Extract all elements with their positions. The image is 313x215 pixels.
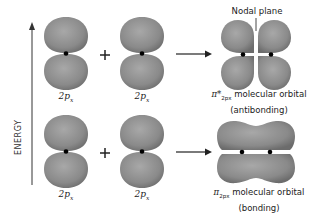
mo-type: (antibonding) — [230, 105, 287, 115]
top-left-orbital-label: 2px — [59, 91, 74, 103]
nucleus-dot — [269, 52, 274, 57]
antibonding-mo-label: π*2px molecular orbital (antibonding) — [211, 88, 306, 116]
orbital-subscript: x — [146, 194, 149, 201]
bottom-plus-sign — [100, 148, 110, 158]
top-reaction-arrow — [176, 51, 212, 58]
bottom-right-p-orbital — [120, 115, 164, 188]
arrow-right-icon — [205, 149, 212, 156]
top-plus-sign — [100, 50, 110, 60]
arrow-right-icon — [205, 51, 212, 58]
mo-description: molecular orbital — [234, 89, 306, 99]
mo-subscript: 2px — [219, 193, 229, 199]
orbital-name: 2p — [135, 189, 147, 199]
orbital-subscript: x — [146, 96, 149, 103]
nucleus-dot — [241, 52, 246, 57]
mo-symbol: π* — [211, 89, 221, 99]
energy-axis-label: ENERGY — [14, 120, 23, 155]
nucleus-dot — [140, 149, 145, 154]
orbital-subscript: x — [70, 96, 73, 103]
bottom-reaction-arrow — [176, 149, 212, 156]
nucleus-dot — [64, 149, 69, 154]
bottom-left-p-orbital — [44, 115, 88, 188]
orbital-subscript: x — [70, 194, 73, 201]
nucleus-dot — [64, 51, 69, 56]
antibonding-mo — [221, 18, 291, 90]
mo-subscript: 2px — [221, 95, 231, 101]
bonding-mo-label: π2px molecular orbital (bonding) — [214, 186, 305, 214]
bottom-right-orbital-label: 2px — [135, 189, 150, 201]
top-right-orbital-label: 2px — [135, 91, 150, 103]
bottom-left-orbital-label: 2px — [59, 189, 74, 201]
arrow-up-icon — [29, 22, 35, 30]
top-right-p-orbital — [120, 17, 164, 90]
energy-axis — [29, 22, 35, 185]
orbital-name: 2p — [59, 91, 71, 101]
top-left-p-orbital — [44, 17, 88, 90]
orbital-name: 2p — [59, 189, 71, 199]
mo-type: (bonding) — [238, 203, 279, 213]
orbital-name: 2p — [135, 91, 147, 101]
bonding-mo — [217, 121, 295, 183]
nucleus-dot — [240, 150, 245, 155]
mo-description: molecular orbital — [232, 187, 304, 197]
nucleus-dot — [268, 150, 273, 155]
nucleus-dot — [140, 51, 145, 56]
nodal-plane-label: Nodal plane — [232, 6, 283, 16]
